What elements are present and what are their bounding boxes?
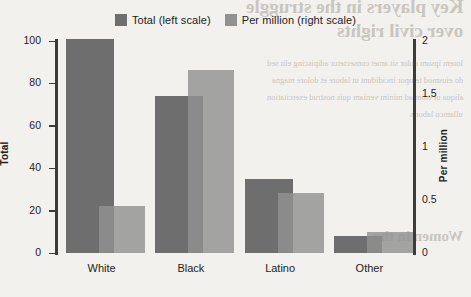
right-tick-label: 0	[422, 246, 456, 258]
left-tick-mark	[49, 125, 55, 127]
bar-per-million[interactable]	[99, 206, 145, 253]
left-tick-label: 80	[7, 76, 41, 88]
category-label: Other	[314, 262, 424, 274]
bar-group	[236, 41, 325, 253]
bar-per-million[interactable]	[188, 70, 234, 253]
right-tick-label: 0.5	[422, 193, 456, 205]
left-tick-label: 0	[7, 246, 41, 258]
plot-area	[57, 41, 414, 253]
left-tick-mark	[49, 83, 55, 85]
left-tick-mark	[49, 210, 55, 212]
left-tick-mark	[49, 168, 55, 170]
left-tick-label: 100	[7, 34, 41, 46]
left-tick-label: 60	[7, 119, 41, 131]
right-tick-label: 1.5	[422, 87, 456, 99]
left-tick-label: 40	[7, 161, 41, 173]
bar-per-million[interactable]	[367, 232, 413, 253]
right-tick-label: 2	[422, 34, 456, 46]
bar-group	[57, 41, 146, 253]
bar-per-million[interactable]	[278, 193, 324, 253]
bar-chart: Total Per million 020406080100 00.511.52…	[0, 0, 471, 297]
bar-group	[146, 41, 235, 253]
left-tick-label: 20	[7, 204, 41, 216]
right-tick-label: 1	[422, 140, 456, 152]
bar-group	[325, 41, 414, 253]
left-tick-mark	[49, 253, 55, 255]
right-axis-title: Per million	[438, 129, 449, 182]
left-tick-mark	[49, 41, 55, 43]
